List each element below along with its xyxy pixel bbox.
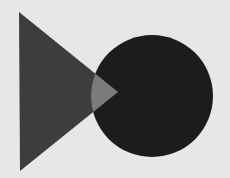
shapes-diagram	[0, 0, 230, 178]
diagram-canvas	[0, 0, 230, 178]
